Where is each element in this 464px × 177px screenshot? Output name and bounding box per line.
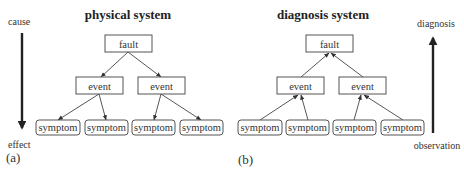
- symptom-node: symptom: [333, 120, 376, 135]
- edge-symptom-3-event-2: [354, 95, 361, 120]
- symptom-label: symptom: [182, 122, 221, 133]
- edge-symptom-2-event-1: [301, 95, 308, 120]
- fault-label: fault: [320, 39, 339, 50]
- symptom-label: symptom: [134, 122, 173, 133]
- event-node: event: [138, 77, 185, 94]
- edge-event-2-fault: [331, 53, 363, 77]
- edge-event-1-fault: [301, 53, 329, 77]
- physical-system-title: physical system: [85, 7, 171, 22]
- event-label: event: [150, 81, 173, 92]
- fault-diagnosis-figure: cause effect (a) physical system fault e…: [0, 0, 464, 177]
- edge-event-2-symptom-4: [161, 94, 201, 120]
- symptom-node: symptom: [238, 120, 282, 135]
- symptom-label: symptom: [383, 122, 422, 133]
- symptom-label: symptom: [87, 122, 126, 133]
- panel-label-a: (a): [6, 150, 20, 165]
- symptom-node: symptom: [85, 120, 128, 135]
- panel-a-physical-system: cause effect (a) physical system fault e…: [6, 7, 223, 165]
- event-node: event: [339, 77, 386, 94]
- symptom-label: symptom: [240, 122, 279, 133]
- event-node: event: [76, 77, 123, 94]
- event-node: event: [277, 77, 324, 94]
- cause-label: cause: [8, 16, 31, 27]
- edge-symptom-4-event-2: [364, 95, 403, 120]
- symptom-label: symptom: [288, 122, 327, 133]
- symptom-label: symptom: [335, 122, 374, 133]
- symptom-label: symptom: [38, 122, 77, 133]
- edge-event-1-symptom-1: [58, 94, 99, 120]
- diagnosis-system-title: diagnosis system: [277, 7, 369, 22]
- panel-b-diagnosis-system: diagnosis system fault event event sympt…: [238, 7, 460, 167]
- fault-node: fault: [105, 35, 152, 52]
- event-label: event: [289, 81, 312, 92]
- edge-fault-event-1: [101, 52, 128, 77]
- event-label: event: [88, 81, 111, 92]
- diagnosis-label: diagnosis: [417, 18, 455, 29]
- symptom-node: symptom: [381, 120, 424, 135]
- edge-fault-event-2: [128, 52, 161, 77]
- edge-symptom-1-event-1: [260, 95, 298, 120]
- symptom-node: symptom: [286, 120, 329, 135]
- fault-label: fault: [119, 39, 138, 50]
- edge-event-1-symptom-2: [99, 94, 106, 120]
- symptom-node: symptom: [180, 120, 223, 135]
- panel-label-b: (b): [238, 152, 253, 167]
- symptom-node: symptom: [132, 120, 175, 135]
- event-label: event: [351, 81, 374, 92]
- edge-event-2-symptom-3: [154, 94, 161, 120]
- fault-node: fault: [306, 35, 353, 52]
- observation-label: observation: [414, 140, 461, 151]
- symptom-node: symptom: [36, 120, 80, 135]
- effect-label: effect: [8, 139, 31, 150]
